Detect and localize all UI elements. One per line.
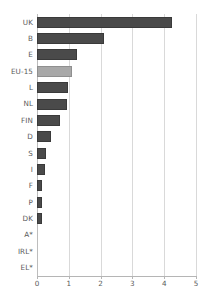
bar-row: DK [0,211,210,227]
bar-row: E [0,47,210,63]
category-label-d: D [0,133,33,140]
bar-track [37,112,196,128]
category-label-l: L [0,84,33,91]
bar-f [37,180,42,191]
category-label-nl: NL [0,100,33,107]
bar-row: F [0,178,210,194]
bar-row: EL* [0,260,210,276]
bar-track [37,227,196,243]
category-label-dk: DK [0,215,33,222]
bar-row: EU-15 [0,63,210,79]
category-label-i: I [0,166,33,173]
bar-track [37,63,196,79]
tick-label-4: 4 [162,280,167,287]
category-label-e: E [0,51,33,58]
bar-dk [37,213,42,224]
bar-e [37,49,77,60]
tick-label-5: 5 [194,280,199,287]
tick-label-1: 1 [67,280,72,287]
bar-i [37,164,45,175]
category-label-a: A* [0,231,33,238]
category-label-p: P [0,199,33,206]
bar-s [37,148,46,159]
bar-row: B [0,30,210,46]
bar-track [37,14,196,30]
bar-eu15 [37,66,72,77]
bar-row: P [0,194,210,210]
bar-track [37,194,196,210]
category-label-b: B [0,35,33,42]
category-label-f: F [0,182,33,189]
category-label-el: EL* [0,264,33,271]
bar-track [37,243,196,259]
bar-row: D [0,129,210,145]
category-label-irl: IRL* [0,248,33,255]
tick-label-2: 2 [98,280,103,287]
bar-chart: UKBEEU-15LNLFINDSIFPDKA*IRL*EL* 012345 [0,0,210,308]
category-label-eu15: EU-15 [0,68,33,75]
tick-label-0: 0 [35,280,40,287]
bar-row: NL [0,96,210,112]
bar-row: L [0,80,210,96]
bar-track [37,80,196,96]
bar-fin [37,115,60,126]
bar-rows: UKBEEU-15LNLFINDSIFPDKA*IRL*EL* [0,14,210,276]
bar-row: A* [0,227,210,243]
x-axis-ticks: 012345 [0,276,210,290]
bar-track [37,30,196,46]
category-label-s: S [0,150,33,157]
bar-d [37,131,51,142]
bar-nl [37,99,67,110]
bar-track [37,178,196,194]
bar-track [37,211,196,227]
bar-row: S [0,145,210,161]
category-label-fin: FIN [0,117,33,124]
bar-row: IRL* [0,243,210,259]
bar-row: UK [0,14,210,30]
bar-track [37,129,196,145]
bar-track [37,47,196,63]
bar-track [37,145,196,161]
bar-track [37,96,196,112]
bar-uk [37,17,172,28]
bar-track [37,260,196,276]
bar-row: I [0,161,210,177]
tick-label-3: 3 [130,280,135,287]
bar-b [37,33,104,44]
bar-row: FIN [0,112,210,128]
bar-l [37,82,68,93]
bar-track [37,161,196,177]
category-label-uk: UK [0,19,33,26]
bar-p [37,197,42,208]
